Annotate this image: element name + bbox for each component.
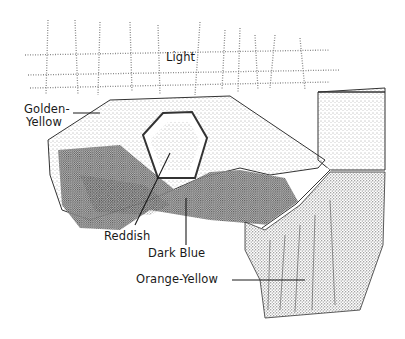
label-orange-yellow: Orange-Yellow — [136, 273, 218, 286]
label-golden-yellow-2: Yellow — [26, 116, 62, 129]
label-light: Light — [166, 51, 195, 64]
label-reddish: Reddish — [104, 230, 150, 243]
illustration — [0, 0, 405, 339]
label-dark-blue: Dark Blue — [148, 247, 205, 260]
right-pillar — [318, 88, 385, 170]
